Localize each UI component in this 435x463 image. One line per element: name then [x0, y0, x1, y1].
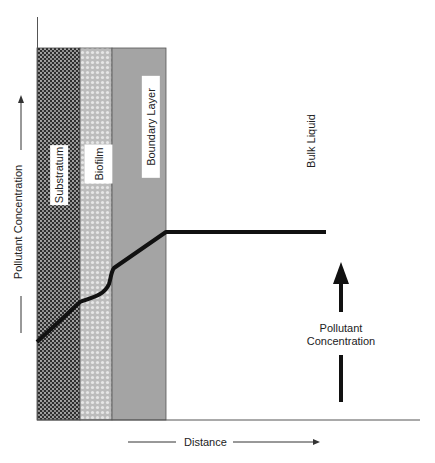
substratum-region [37, 48, 80, 420]
substratum-label: Substratum [50, 145, 68, 205]
x-axis-label: Distance [184, 436, 227, 448]
y-label-arrow-head-icon [18, 95, 24, 103]
biofilm-label: Biofilm [85, 144, 113, 183]
y-axis-label: Pollutant Concentration [12, 165, 24, 279]
annotation-text: Pollutant Concentration [300, 322, 382, 348]
x-label-arrow-head-icon [313, 439, 320, 445]
annotation-arrow-head-icon [333, 262, 349, 284]
annotation-line-2: Concentration [300, 335, 382, 348]
biofilm-region [80, 48, 112, 420]
bulk-liquid-label: Bulk Liquid [305, 114, 317, 168]
annotation-line-1: Pollutant [300, 322, 382, 335]
diagram-canvas [0, 0, 435, 463]
boundary-layer-label: Boundary Layer [142, 76, 160, 178]
